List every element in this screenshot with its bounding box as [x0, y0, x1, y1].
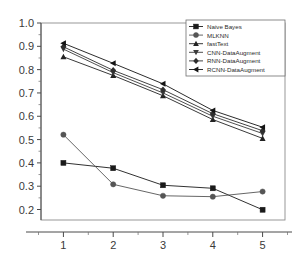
data-point — [210, 194, 215, 199]
legend-label-1: Naive Bayes — [207, 23, 242, 30]
data-point — [160, 193, 165, 198]
y-axis-tick-label: 1.0 — [19, 17, 34, 29]
x-axis-tick-label: 1 — [60, 239, 66, 251]
data-point — [61, 132, 66, 137]
data-point — [111, 166, 116, 171]
data-point — [193, 33, 198, 38]
x-axis-tick-label: 3 — [160, 239, 166, 251]
y-axis-tick-label: 0.7 — [19, 87, 34, 99]
y-axis-tick-label: 0.4 — [19, 157, 34, 169]
legend-label-6: RCNN-DataAugment — [207, 66, 265, 73]
data-point — [210, 186, 215, 191]
y-axis-tick-label: 0.2 — [19, 204, 34, 216]
data-point — [194, 24, 199, 29]
y-axis-tick-label: 0.6 — [19, 110, 34, 122]
data-point — [160, 81, 166, 87]
x-axis-tick-label: 4 — [210, 239, 216, 251]
y-axis-tick-label: 0.8 — [19, 64, 34, 76]
data-point — [111, 182, 116, 187]
y-axis-tick-label: 0.5 — [19, 134, 34, 146]
y-axis-tick-label: 0.3 — [19, 180, 34, 192]
y-axis-tick-label: 0.9 — [19, 40, 34, 52]
chart-canvas: 0.20.30.40.50.60.70.80.91.012345Naive Ba… — [0, 0, 298, 253]
data-point — [61, 160, 66, 165]
line-chart: 0.20.30.40.50.60.70.80.91.012345Naive Ba… — [0, 0, 298, 253]
data-point — [161, 183, 166, 188]
data-point — [110, 67, 116, 74]
data-point — [260, 189, 265, 194]
x-axis-tick-label: 5 — [260, 239, 266, 251]
data-point — [60, 54, 66, 60]
data-point — [260, 207, 265, 212]
legend-label-5: RNN-DataAugment — [207, 57, 261, 64]
legend-label-4: CNN-DataAugment — [207, 49, 261, 56]
x-axis-tick-label: 2 — [110, 239, 116, 251]
legend-label-3: fastText — [207, 40, 229, 47]
data-point — [110, 60, 116, 66]
legend-label-2: MLKNN — [207, 32, 229, 39]
